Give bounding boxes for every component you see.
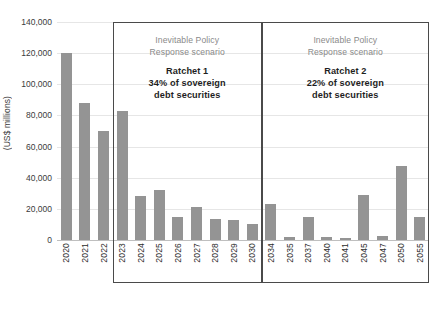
- bar: [284, 237, 295, 240]
- bars-group: [57, 22, 429, 240]
- x-axis-tick-label: 2034: [266, 243, 276, 263]
- x-axis-tick-label: 2035: [285, 243, 295, 263]
- bar: [191, 207, 202, 240]
- y-axis-tick-label: 40,000: [26, 173, 52, 183]
- bar: [154, 190, 165, 240]
- x-axis-tick-label: 2030: [247, 243, 257, 263]
- x-axis-tick-label: 2024: [136, 243, 146, 263]
- y-axis-tick-label: 80,000: [26, 110, 52, 120]
- x-axis-tick-label: 2026: [173, 243, 183, 263]
- x-axis-tick-label: 2021: [80, 243, 90, 263]
- x-axis-tick-label: 2022: [99, 243, 109, 263]
- gridline: 0: [57, 240, 429, 241]
- x-axis-tick-label: 2029: [229, 243, 239, 263]
- bar: [135, 196, 146, 240]
- y-axis-tick-label: 20,000: [26, 204, 52, 214]
- y-axis-tick-label: 140,000: [21, 17, 52, 27]
- bar: [303, 217, 314, 240]
- bar: [79, 103, 90, 240]
- x-axis-tick-label: 2045: [359, 243, 369, 263]
- x-axis-tick-label: 2020: [61, 243, 71, 263]
- x-axis-tick-label: 2025: [154, 243, 164, 263]
- x-axis-labels-group: 2020202120222023202420252026202720282029…: [57, 243, 429, 283]
- bar: [358, 195, 369, 240]
- x-axis-tick-label: 2027: [192, 243, 202, 263]
- bar: [172, 217, 183, 240]
- y-axis-tick-label: 100,000: [21, 79, 52, 89]
- bar: [228, 220, 239, 240]
- bar: [117, 111, 128, 240]
- y-axis-tick-label: 0: [47, 235, 52, 245]
- x-axis-tick-label: 2028: [210, 243, 220, 263]
- x-axis-tick-label: 2041: [340, 243, 350, 263]
- bar: [98, 131, 109, 240]
- bar: [377, 236, 388, 240]
- y-axis-title: (US$ millions): [2, 96, 16, 150]
- y-axis-tick-label: 120,000: [21, 48, 52, 58]
- x-axis-tick-label: 2040: [322, 243, 332, 263]
- x-axis-tick-label: 2055: [415, 243, 425, 263]
- bar: [321, 237, 332, 240]
- bar: [265, 204, 276, 240]
- bar: [61, 53, 72, 240]
- bar: [210, 219, 221, 240]
- bar: [396, 166, 407, 240]
- x-axis-tick-label: 2037: [303, 243, 313, 263]
- x-axis-tick-label: 2050: [396, 243, 406, 263]
- bar-chart: (US$ millions) 020,00040,00060,00080,000…: [0, 0, 440, 315]
- bar: [247, 224, 258, 240]
- y-axis-tick-label: 60,000: [26, 142, 52, 152]
- bar: [414, 217, 425, 240]
- plot-area: 020,00040,00060,00080,000100,000120,0001…: [57, 22, 429, 240]
- x-axis-tick-label: 2023: [117, 243, 127, 263]
- x-axis-tick-label: 2047: [378, 243, 388, 263]
- bar: [340, 238, 351, 240]
